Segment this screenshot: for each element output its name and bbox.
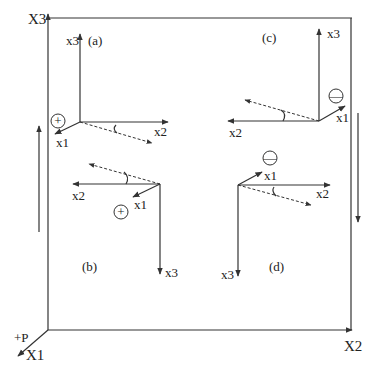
global-x2-label: X2 (344, 338, 362, 354)
panel-a-x1-label: x1 (56, 135, 69, 150)
load-label: +P (14, 330, 29, 345)
panel-d-x1-axis (238, 172, 262, 185)
panel-c: x3 (c) x2 x1 — (228, 26, 349, 140)
panel-a: x3 (a) x2 x1 + (51, 33, 168, 150)
panel-a-sign: + (54, 113, 61, 128)
panel-a-x3-label: x3 (66, 33, 79, 48)
panel-b-x2-label: x2 (72, 188, 85, 203)
diagram: X3 X2 X1 +P x3 (a) x2 x1 + x2 x1 x3 (b) … (0, 0, 376, 374)
panel-d-x3-label: x3 (221, 267, 234, 282)
global-x3-label: X3 (28, 11, 46, 27)
panel-d-x2-label: x2 (316, 186, 329, 201)
global-x1-label: X1 (26, 347, 44, 363)
panel-c-label: (c) (262, 30, 276, 45)
panel-d: x1 x2 x3 (d) — (221, 150, 330, 282)
panel-b-label: (b) (82, 259, 97, 274)
panel-c-x1-label: x1 (336, 110, 349, 125)
panel-c-x3-label: x3 (327, 26, 340, 41)
panel-a-label: (a) (88, 33, 102, 48)
panel-c-rotation-arc (281, 110, 285, 121)
panel-b-sign: + (117, 204, 124, 219)
panel-b-x3-label: x3 (165, 265, 178, 280)
global-frame: X3 X2 X1 +P (14, 11, 362, 363)
panel-c-sign: — (329, 88, 344, 103)
panel-a-x2-label: x2 (154, 124, 167, 139)
panel-b-x1-label: x1 (134, 197, 147, 212)
panel-b-rotated-axis (89, 164, 160, 184)
panel-c-x2-label: x2 (229, 125, 242, 140)
panel-b-x1-axis (133, 184, 160, 197)
panel-d-label: (d) (269, 259, 284, 274)
panel-d-sign: — (263, 150, 278, 165)
panel-d-x1-label: x1 (264, 168, 277, 183)
panel-b: x2 x1 x3 (b) + (72, 164, 178, 280)
